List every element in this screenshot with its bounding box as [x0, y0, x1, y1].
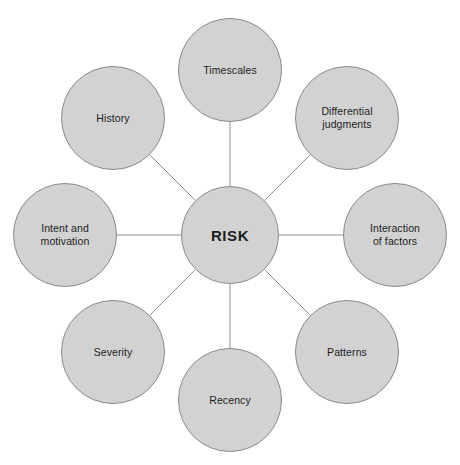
connector-risk-to-history [150, 155, 196, 201]
connector-risk-to-severity [150, 270, 196, 316]
node-interaction-label: Interaction of factors [364, 222, 426, 248]
node-history[interactable]: History [61, 66, 165, 170]
node-timescales-label: Timescales [197, 64, 263, 77]
node-severity-label: Severity [88, 346, 139, 359]
node-differential[interactable]: Differential judgments [295, 66, 399, 170]
node-timescales[interactable]: Timescales [178, 18, 282, 122]
node-patterns[interactable]: Patterns [295, 300, 399, 404]
risk-factors-diagram: TimescalesDifferential judgmentsInteract… [0, 0, 460, 465]
node-intent[interactable]: Intent and motivation [13, 183, 117, 287]
connector-risk-to-patterns [265, 270, 311, 316]
node-interaction[interactable]: Interaction of factors [343, 183, 447, 287]
node-risk-center-label: RISK [205, 229, 255, 242]
node-recency-label: Recency [203, 394, 257, 407]
node-history-label: History [90, 112, 135, 125]
node-intent-label: Intent and motivation [35, 222, 96, 248]
node-severity[interactable]: Severity [61, 300, 165, 404]
node-patterns-label: Patterns [321, 346, 373, 359]
node-risk-center[interactable]: RISK [181, 186, 279, 284]
node-recency[interactable]: Recency [178, 348, 282, 452]
node-differential-label: Differential judgments [315, 105, 378, 131]
connector-risk-to-differential [265, 155, 311, 201]
